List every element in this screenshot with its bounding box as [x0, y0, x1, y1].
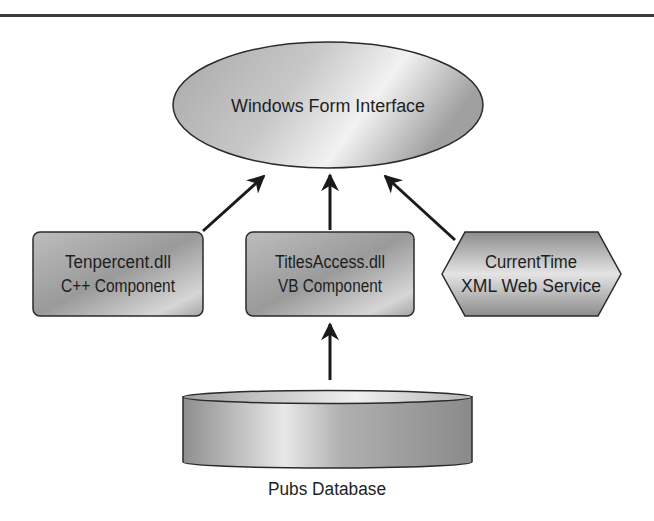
label-tenpercent-line1: Tenpercent.dll [65, 252, 171, 272]
arrow-currenttime-to-form [385, 176, 455, 240]
label-tenpercent-line2: C++ Component [61, 276, 175, 296]
label-windows-form: Windows Form Interface [231, 96, 425, 116]
architecture-diagram: Windows Form Interface Tenpercent.dll C+… [0, 0, 654, 521]
label-titlesaccess-line2: VB Component [278, 276, 382, 296]
label-pubs-database: Pubs Database [268, 479, 386, 499]
node-windows-form-interface: Windows Form Interface [173, 42, 483, 168]
label-currenttime-line2: XML Web Service [461, 276, 601, 296]
label-titlesaccess-line1: TitlesAccess.dll [275, 252, 385, 272]
node-tenpercent-dll: Tenpercent.dll C++ Component [33, 232, 203, 316]
node-titlesaccess-dll: TitlesAccess.dll VB Component [246, 232, 414, 316]
arrow-tenpercent-to-form [203, 176, 264, 231]
node-currenttime-web-service: CurrentTime XML Web Service [442, 232, 621, 316]
label-currenttime-line1: CurrentTime [485, 252, 577, 272]
node-pubs-database: Pubs Database [183, 391, 472, 500]
